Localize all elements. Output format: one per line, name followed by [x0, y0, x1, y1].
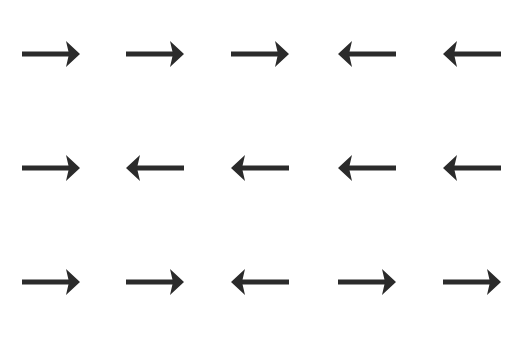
arrow-right-icon: [21, 40, 81, 68]
arrow-left-icon: [230, 268, 290, 296]
arrow-left-icon: [337, 154, 397, 182]
arrow-left-icon: [337, 40, 397, 68]
arrow-left-icon: [230, 154, 290, 182]
arrow-right-icon: [21, 154, 81, 182]
arrow-right-icon: [337, 268, 397, 296]
arrow-left-icon: [442, 40, 502, 68]
arrow-right-icon: [442, 268, 502, 296]
arrow-left-icon: [442, 154, 502, 182]
arrow-right-icon: [125, 268, 185, 296]
arrow-grid: [0, 0, 526, 342]
arrow-left-icon: [125, 154, 185, 182]
arrow-right-icon: [21, 268, 81, 296]
arrow-right-icon: [230, 40, 290, 68]
arrow-right-icon: [125, 40, 185, 68]
